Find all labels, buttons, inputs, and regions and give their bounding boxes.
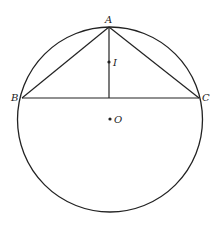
label-i: I: [112, 57, 118, 68]
label-b: B: [10, 92, 18, 103]
label-o: O: [114, 114, 122, 125]
side-ab: [22, 27, 109, 98]
label-c: C: [202, 92, 210, 103]
geometry-diagram: A B C I O: [0, 0, 218, 227]
point-i-dot: [107, 60, 110, 63]
point-o-dot: [108, 117, 111, 120]
label-a: A: [104, 14, 112, 25]
